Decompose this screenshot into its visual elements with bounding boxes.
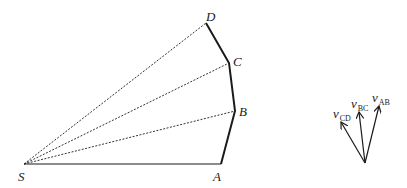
dashed-ray-SB bbox=[24, 111, 235, 164]
label-v-BC: vBC bbox=[351, 96, 368, 113]
label-v-AB: vAB bbox=[372, 90, 390, 107]
label-v-CD: vCD bbox=[333, 106, 351, 123]
label-B: B bbox=[239, 104, 247, 119]
label-D: D bbox=[205, 9, 216, 24]
label-A: A bbox=[212, 169, 221, 184]
vector-v-AB bbox=[365, 106, 379, 163]
label-S: S bbox=[18, 169, 25, 184]
label-C: C bbox=[233, 54, 242, 69]
polyline-ABCD bbox=[206, 23, 235, 164]
polygon-diagram: S A B C D vAB vBC vCD bbox=[0, 0, 407, 188]
diagram-canvas: S A B C D vAB vBC vCD bbox=[0, 0, 407, 188]
dashed-ray-SC bbox=[24, 63, 229, 164]
dashed-ray-SD bbox=[24, 23, 206, 164]
